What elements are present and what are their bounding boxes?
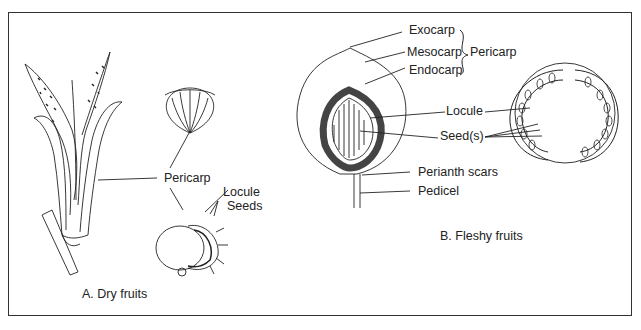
fleshy-fruit-cross-section xyxy=(510,63,618,163)
label-pericarp-fleshy: Pericarp xyxy=(470,46,517,59)
label-pedicel: Pedicel xyxy=(418,185,459,198)
label-pericarp-dry: Pericarp xyxy=(164,172,211,185)
label-locule-dry: Locule xyxy=(223,186,260,199)
label-seeds-fleshy: Seed(s) xyxy=(440,130,484,143)
caption-dry-fruits: A. Dry fruits xyxy=(82,287,147,301)
dry-fruit-capsule xyxy=(165,88,215,133)
label-mesocarp: Mesocarp xyxy=(407,46,462,59)
label-seeds-dry: Seeds xyxy=(227,200,262,213)
diagram-artwork xyxy=(0,0,641,330)
label-exocarp: Exocarp xyxy=(409,24,455,37)
label-perianth-scars: Perianth scars xyxy=(418,166,498,179)
label-endocarp: Endocarp xyxy=(409,64,463,77)
caption-fleshy-fruits: B. Fleshy fruits xyxy=(440,229,523,243)
label-locule-fleshy: Locule xyxy=(446,105,483,118)
dry-fruit-pods xyxy=(25,52,122,275)
fleshy-fruit-drupe xyxy=(297,48,406,208)
dry-fruit-opened xyxy=(156,225,228,276)
